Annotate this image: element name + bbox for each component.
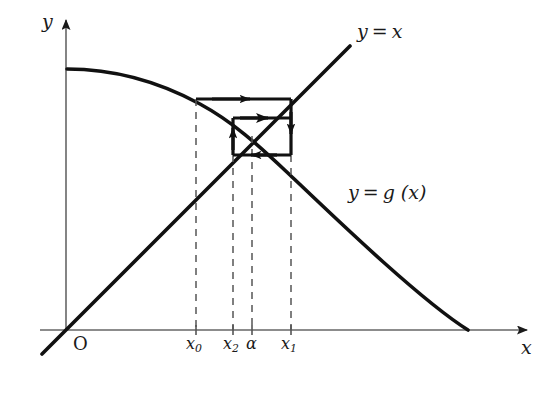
x-axis-label: x	[521, 336, 532, 358]
tick-label-alpha: α	[246, 334, 257, 353]
tick-label-x2-sub: 2	[232, 342, 239, 355]
identity-line-label: y=x	[357, 20, 402, 42]
tick-label-x1-base: x	[281, 334, 290, 353]
g-label-eq: =	[363, 181, 379, 203]
tick-label-x0-sub: 0	[195, 342, 202, 355]
tick-label-x2: x2	[223, 334, 239, 355]
tick-label-x0: x0	[186, 334, 202, 355]
tick-label-x2-base: x	[223, 334, 232, 353]
origin-label: O	[73, 333, 88, 354]
identity-label-arg: x	[392, 20, 403, 42]
g-curve-label: y=g (x)	[348, 181, 426, 203]
g-label-y: y	[348, 181, 359, 203]
cobweb-path	[196, 99, 291, 155]
identity-label-y: y	[357, 20, 368, 42]
tick-label-x1-sub: 1	[290, 342, 297, 355]
tick-label-x0-base: x	[186, 334, 195, 353]
identity-label-eq: =	[372, 20, 388, 42]
y-axis-label: y	[42, 10, 53, 32]
tick-label-x1: x1	[281, 334, 297, 355]
g-label-arg: g (x)	[383, 181, 427, 203]
tick-label-alpha-base: α	[246, 334, 257, 353]
figure-canvas: y x O y=x y=g (x) x0 x2 α x1	[0, 0, 546, 397]
